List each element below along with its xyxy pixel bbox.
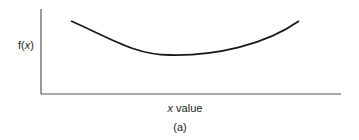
x-axis-label: x value: [160, 102, 210, 114]
ylabel-pre: f(: [18, 39, 25, 51]
ylabel-post: ): [30, 39, 34, 51]
y-axis-label: f(x): [18, 39, 34, 51]
plot-area: [0, 0, 359, 140]
function-plot: f(x) x value (a): [0, 0, 359, 140]
curve-fx: [71, 21, 299, 55]
xlabel-rest: value: [173, 102, 202, 114]
figure-caption: (a): [165, 121, 195, 133]
